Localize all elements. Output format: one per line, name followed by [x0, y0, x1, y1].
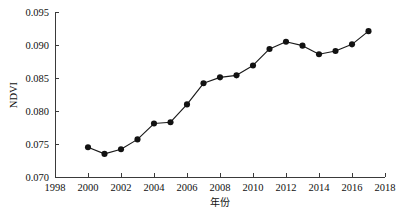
- x-axis-tick-labels: 1998200020022004200620082010201220142016…: [45, 182, 396, 193]
- x-tick-label: 1998: [45, 182, 66, 193]
- y-axis-tick-labels: 0.0700.0750.0800.0850.0900.095: [25, 7, 49, 183]
- data-point-marker: [134, 136, 140, 142]
- x-tick-label: 2000: [78, 182, 99, 193]
- x-tick-label: 2012: [276, 182, 297, 193]
- y-tick-label: 0.085: [25, 73, 49, 84]
- y-tick-label: 0.095: [25, 7, 49, 18]
- x-tick-label: 2006: [177, 182, 198, 193]
- data-point-marker: [217, 74, 223, 80]
- data-point-marker: [332, 48, 338, 54]
- data-point-marker: [151, 120, 157, 126]
- y-tick-label: 0.080: [25, 106, 49, 117]
- x-tick-label: 2010: [243, 182, 264, 193]
- data-point-marker: [101, 151, 107, 157]
- y-tick-label: 0.070: [25, 172, 49, 183]
- data-point-marker: [365, 28, 371, 34]
- data-point-marker: [266, 46, 272, 52]
- data-point-marker: [85, 144, 91, 150]
- data-point-marker: [184, 101, 190, 107]
- data-point-marker: [233, 72, 239, 78]
- data-point-marker: [250, 62, 256, 68]
- data-point-marker: [283, 39, 289, 45]
- data-point-marker: [118, 146, 124, 152]
- ndvi-line-chart: 1998200020022004200620082010201220142016…: [0, 0, 399, 213]
- y-tick-label: 0.075: [25, 139, 49, 150]
- x-tick-label: 2008: [210, 182, 231, 193]
- ndvi-data-series: [85, 28, 372, 157]
- data-point-marker: [349, 41, 355, 47]
- x-axis-title: 年份: [210, 196, 230, 208]
- data-point-marker: [316, 51, 322, 57]
- x-tick-label: 2018: [375, 182, 396, 193]
- y-tick-label: 0.090: [25, 40, 49, 51]
- x-tick-label: 2002: [111, 182, 132, 193]
- chart-page: 1998200020022004200620082010201220142016…: [0, 0, 399, 213]
- y-axis-title: NDVI: [8, 81, 19, 108]
- x-tick-label: 2016: [342, 182, 363, 193]
- data-point-marker: [200, 80, 206, 86]
- data-point-marker: [299, 43, 305, 49]
- series-line-ndvi: [88, 31, 369, 154]
- x-tick-label: 2004: [144, 182, 166, 193]
- data-point-marker: [167, 119, 173, 125]
- x-tick-label: 2014: [309, 182, 331, 193]
